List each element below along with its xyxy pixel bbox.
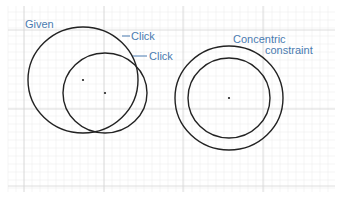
clicked-center-point [104, 92, 106, 94]
label-click-1: Click [131, 30, 155, 42]
label-click-2: Click [149, 50, 173, 62]
label-constraint: constraint [265, 44, 313, 56]
concentric-center-point [228, 97, 230, 99]
concentric-constraint-diagram: Given Click Click Concentric constraint [0, 0, 343, 202]
given-center-point [82, 79, 84, 81]
label-given: Given [25, 18, 54, 30]
grid-background [8, 6, 335, 192]
concentric-group: Concentric constraint [175, 33, 313, 150]
